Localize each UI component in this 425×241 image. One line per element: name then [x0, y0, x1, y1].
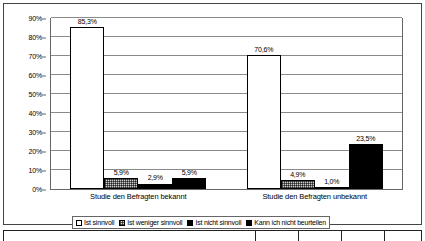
y-axis-tick-mark [42, 114, 46, 115]
chart-frame: 0%10%20%30%40%50%60%70%80%90% 85,3%5,9%2… [3, 3, 422, 225]
y-axis-tick-mark [42, 190, 46, 191]
x-axis-category-labels: Studie den Befragten bekanntStudie den B… [50, 192, 403, 206]
bar [104, 178, 138, 189]
y-axis-tick-mark [42, 133, 46, 134]
legend-label: Kann ich nicht beurteilen [254, 219, 326, 227]
y-axis-tick-label: 20% [29, 148, 42, 156]
y-axis-tick-mark [42, 19, 46, 20]
bar-value-label: 5,9% [114, 169, 129, 177]
bar-value-label: 2,9% [148, 174, 163, 182]
legend-item[interactable]: Ist sinnvoll [76, 219, 114, 227]
y-axis-tick-mark [42, 38, 46, 39]
screenshot-page: 0%10%20%30%40%50%60%70%80%90% 85,3%5,9%2… [0, 0, 425, 241]
legend-swatch-icon [246, 220, 252, 226]
bottom-table [3, 230, 422, 241]
legend-label: Ist weniger sinnvoll [127, 219, 182, 227]
bar [247, 55, 281, 189]
x-axis-category-label: Studie den Befragten unbekannt [262, 192, 367, 202]
y-axis-tick-label: 0% [32, 186, 42, 194]
y-axis-tick-label: 30% [29, 129, 42, 137]
y-axis-tick-label: 10% [29, 167, 42, 175]
y-axis-tick-label: 50% [29, 91, 42, 99]
bar-value-label: 1,0% [324, 178, 339, 186]
y-axis-tick-label: 90% [29, 15, 42, 23]
y-axis-tick-mark [42, 171, 46, 172]
y-axis: 0%10%20%30%40%50%60%70%80%90% [10, 18, 46, 190]
chart-legend: Ist sinnvollIst weniger sinnvollIst nich… [72, 216, 330, 229]
y-axis-tick-label: 60% [29, 72, 42, 80]
table-cell [342, 231, 385, 241]
y-axis-tick-label: 70% [29, 53, 42, 61]
bar-value-label: 70,6% [254, 46, 273, 54]
bar-value-label: 4,9% [290, 171, 305, 179]
legend-item[interactable]: Ist weniger sinnvoll [119, 219, 182, 227]
bar-value-label: 85,3% [78, 18, 97, 26]
legend-item[interactable]: Kann ich nicht beurteilen [246, 219, 326, 227]
legend-swatch-icon [187, 220, 193, 226]
table-cell [385, 231, 421, 241]
y-axis-tick-mark [42, 57, 46, 58]
legend-label: Ist sinnvoll [84, 219, 114, 227]
legend-label: Ist nicht sinnvoll [195, 219, 241, 227]
bars-layer: 85,3%5,9%2,9%5,9%70,6%4,9%1,0%23,5% [50, 18, 403, 190]
bar [70, 27, 104, 189]
y-axis-tick-label: 80% [29, 34, 42, 42]
x-axis-category-label: Studie den Befragten bekannt [90, 192, 186, 202]
bar [138, 184, 172, 190]
y-axis-tick-label: 40% [29, 110, 42, 118]
bar [281, 180, 315, 189]
bar-value-label: 23,5% [356, 135, 375, 143]
legend-item[interactable]: Ist nicht sinnvoll [187, 219, 241, 227]
bar [349, 144, 383, 189]
bar [172, 178, 206, 189]
bar-value-label: 5,9% [182, 169, 197, 177]
y-axis-tick-mark [42, 152, 46, 153]
table-cell [256, 231, 299, 241]
legend-swatch-icon [119, 220, 125, 226]
table-cell [4, 231, 256, 241]
y-axis-tick-mark [42, 95, 46, 96]
table-cell [299, 231, 342, 241]
bar [315, 187, 349, 189]
y-axis-tick-mark [42, 76, 46, 77]
legend-swatch-icon [76, 220, 82, 226]
